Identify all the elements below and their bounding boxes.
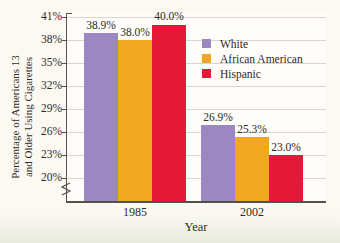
- y-axis-line: [66, 13, 67, 203]
- y-axis-top-cap: [66, 13, 72, 14]
- y-tick-label: 41%: [22, 10, 62, 22]
- bar-hispanic: [152, 25, 186, 203]
- y-tick-label: 32%: [22, 79, 62, 91]
- bar-african-american: [118, 40, 152, 203]
- plot-area: WhiteAfrican AmericanHispanic 38.9%38.0%…: [66, 13, 326, 203]
- bar-value-label: 26.9%: [188, 111, 248, 123]
- y-tick-label: 38%: [22, 33, 62, 45]
- legend-swatch: [202, 69, 211, 78]
- chart-page: Percentage of Americans 13 and Older Usi…: [0, 0, 340, 243]
- y-tick-label: 35%: [22, 56, 62, 68]
- category-label: 2002: [201, 205, 303, 220]
- axis-break-icon: [61, 181, 72, 197]
- x-axis-title: Year: [66, 220, 326, 235]
- bar-value-label: 25.3%: [222, 123, 282, 135]
- y-axis-title-line1: Percentage of Americans 13: [9, 36, 22, 198]
- category-label: 1985: [84, 205, 186, 220]
- bar-value-label: 40.0%: [139, 10, 199, 22]
- bar-hispanic: [269, 155, 303, 203]
- legend-item: African American: [202, 53, 303, 64]
- y-tick-label: 23%: [22, 148, 62, 160]
- y-tick-label: 26%: [22, 125, 62, 137]
- x-axis-line: [66, 201, 326, 203]
- bar-value-label: 23.0%: [256, 141, 316, 153]
- legend-label: Hispanic: [220, 68, 261, 80]
- legend-swatch: [202, 54, 211, 63]
- bar-white: [201, 125, 235, 203]
- legend-label: White: [220, 38, 248, 50]
- legend-swatch: [202, 39, 211, 48]
- bar-value-label: 38.0%: [105, 26, 165, 38]
- legend-label: African American: [220, 53, 303, 65]
- y-tick-label: 20%: [22, 171, 62, 183]
- bar-white: [84, 33, 118, 203]
- y-tick-label: 29%: [22, 102, 62, 114]
- legend-item: White: [202, 38, 303, 49]
- legend-item: Hispanic: [202, 68, 303, 79]
- legend: WhiteAfrican AmericanHispanic: [202, 38, 303, 83]
